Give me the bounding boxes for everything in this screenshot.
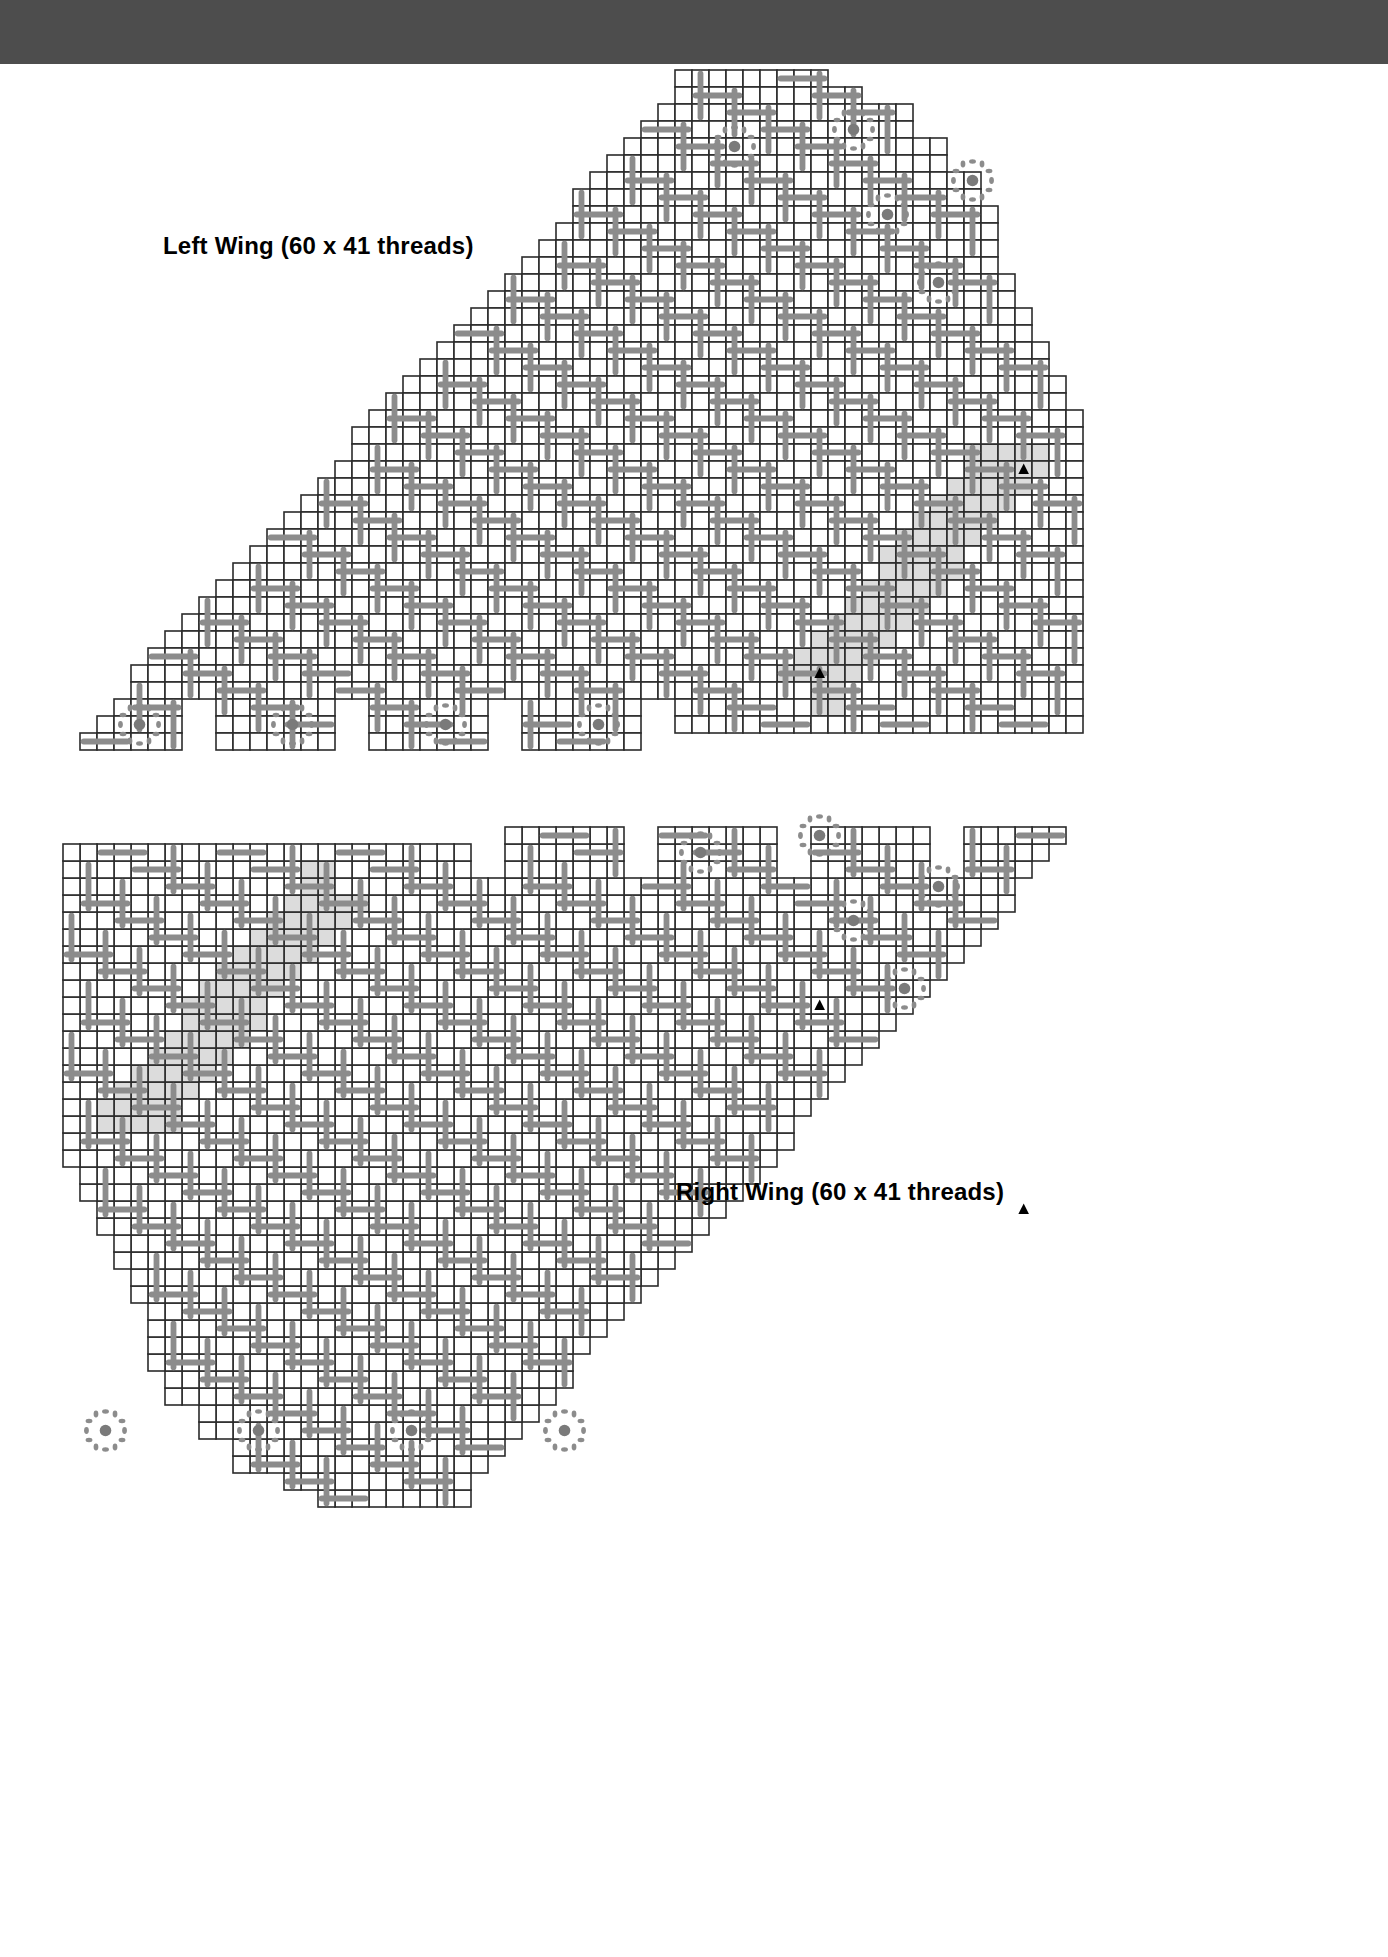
grid-cell	[641, 393, 658, 410]
grid-cell	[539, 512, 556, 529]
grid-cell	[471, 1337, 488, 1354]
eyelet-dot	[118, 721, 123, 728]
grid-cell	[148, 1354, 165, 1371]
grid-cell	[471, 699, 488, 716]
grid-cell	[63, 844, 80, 861]
grid-cell	[590, 665, 607, 682]
eyelet-dot	[918, 996, 925, 1000]
repeat-cell	[284, 946, 301, 963]
grid-cell	[539, 1014, 556, 1031]
grid-cell	[573, 274, 590, 291]
grid-cell	[658, 495, 675, 512]
grid-cell	[726, 189, 743, 206]
grid-cell	[777, 512, 794, 529]
eyelet-dot	[893, 1002, 898, 1009]
grid-cell	[930, 478, 947, 495]
grid-cell	[641, 682, 658, 699]
grid-cell	[403, 946, 420, 963]
eyelet-dot	[946, 263, 951, 270]
grid-cell	[352, 1405, 369, 1422]
grid-cell	[743, 206, 760, 223]
grid-cell	[454, 512, 471, 529]
eyelet-dot	[128, 738, 133, 745]
grid-cell	[573, 1235, 590, 1252]
eyelet-dot	[462, 721, 467, 728]
grid-cell	[811, 240, 828, 257]
eyelet-dot	[612, 713, 619, 717]
grid-cell	[284, 1065, 301, 1082]
grid-cell	[318, 1286, 335, 1303]
grid-cell	[80, 844, 97, 861]
eyelet-dot	[816, 852, 823, 856]
grid-cell	[658, 104, 675, 121]
eyelet-dot	[572, 1444, 577, 1451]
eyelet-dot	[946, 867, 951, 874]
grid-cell	[352, 580, 369, 597]
grid-cell	[352, 1422, 369, 1439]
grid-cell	[182, 1099, 199, 1116]
grid-cell	[539, 376, 556, 393]
eyelet-center-dot	[814, 830, 826, 842]
grid-cell	[658, 1218, 675, 1235]
grid-cell	[216, 1405, 233, 1422]
grid-cell	[131, 1235, 148, 1252]
grid-cell	[199, 1422, 216, 1439]
grid-cell	[386, 1490, 403, 1507]
grid-cell	[726, 546, 743, 563]
grid-cell	[794, 461, 811, 478]
grid-cell	[250, 614, 267, 631]
grid-cell	[403, 427, 420, 444]
eyelet-dot	[927, 263, 932, 270]
grid-cell	[114, 980, 131, 997]
grid-cell	[1049, 648, 1066, 665]
eyelet-dot	[697, 869, 704, 873]
eyelet-dot	[237, 1427, 242, 1434]
grid-cell	[454, 1099, 471, 1116]
grid-cell	[879, 1014, 896, 1031]
eyelet-dot	[247, 1411, 252, 1418]
grid-cell	[658, 844, 675, 861]
eyelet-dot	[834, 118, 841, 122]
grid-cell	[828, 580, 845, 597]
grid-cell	[947, 716, 964, 733]
eyelet-dot	[612, 732, 619, 736]
grid-cell	[607, 308, 624, 325]
eyelet-dot	[713, 143, 718, 150]
grid-cell	[437, 1405, 454, 1422]
grid-cell	[437, 1048, 454, 1065]
grid-cell	[624, 359, 641, 376]
grid-cell	[301, 980, 318, 997]
grid-cell	[760, 946, 777, 963]
grid-cell	[777, 1133, 794, 1150]
grid-cell	[556, 844, 573, 861]
grid-cell	[607, 189, 624, 206]
grid-cell	[335, 1150, 352, 1167]
repeat-cell	[284, 895, 301, 912]
grid-cell	[63, 1099, 80, 1116]
grid-cell	[454, 393, 471, 410]
grid-cell	[522, 1014, 539, 1031]
eyelet-dot	[553, 1444, 558, 1451]
grid-cell	[505, 1422, 522, 1439]
grid-cell	[182, 1371, 199, 1388]
eyelet-dot	[122, 1427, 127, 1434]
grid-cell	[471, 308, 488, 325]
grid-cell	[675, 563, 692, 580]
grid-cell	[573, 912, 590, 929]
grid-cell	[590, 1320, 607, 1337]
grid-cell	[165, 1150, 182, 1167]
eyelet-dot	[868, 203, 875, 207]
grid-cell	[250, 733, 267, 750]
grid-cell	[454, 1150, 471, 1167]
repeat-cell	[811, 648, 828, 665]
grid-cell	[199, 1167, 216, 1184]
grid-cell	[573, 1031, 590, 1048]
grid-cell	[658, 1252, 675, 1269]
grid-cell	[488, 1422, 505, 1439]
grid-cell	[590, 580, 607, 597]
eyelet-dot	[86, 1419, 93, 1423]
grid-cell	[403, 1031, 420, 1048]
grid-cell	[1015, 631, 1032, 648]
grid-cell	[930, 138, 947, 155]
grid-cell	[624, 206, 641, 223]
